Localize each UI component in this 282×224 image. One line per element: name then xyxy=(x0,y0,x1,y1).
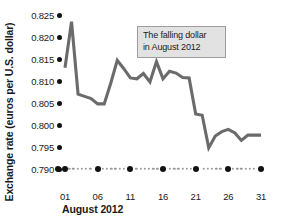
x-axis-baseline-dot-icon xyxy=(110,168,112,170)
x-axis-tick-label: 11 xyxy=(126,191,135,202)
x-axis-tick-dot-icon xyxy=(225,166,231,172)
x-axis-baseline-dot-icon xyxy=(211,168,213,170)
x-axis-baseline-dot-icon xyxy=(106,168,108,170)
y-axis-tick-label: 0.805 xyxy=(24,98,54,109)
y-axis-tick-dot-icon xyxy=(57,145,62,150)
x-axis-tick-dot-icon xyxy=(193,166,199,172)
annotation-callout: The falling dollar in August 2012 xyxy=(137,26,226,58)
exchange-rate-line-chart: Exchange rate (euros per U.S. dollar) 0.… xyxy=(0,0,282,224)
x-axis-baseline-dot-icon xyxy=(215,168,217,170)
x-axis-baseline-dot-icon xyxy=(232,168,234,170)
x-axis-baseline-dot-icon xyxy=(139,168,141,170)
x-axis-baseline-dot-icon xyxy=(156,168,158,170)
y-axis-tick-label: 0.825 xyxy=(24,10,54,21)
y-axis-tick-label: 0.815 xyxy=(24,54,54,65)
y-axis-title: Exchange rate (euros per U.S. dollar) xyxy=(0,0,18,224)
x-axis-baseline-dot-icon xyxy=(68,168,70,170)
x-axis-tick-label: 26 xyxy=(223,191,233,202)
y-axis-tick: 0.825 xyxy=(24,9,62,21)
x-axis-baseline-dot-icon xyxy=(102,168,104,170)
x-axis-baseline-dot-icon xyxy=(76,168,78,170)
y-axis-tick-label: 0.820 xyxy=(24,32,54,43)
x-axis-baseline-dot-icon xyxy=(253,168,255,170)
x-axis-baseline-dot-icon xyxy=(89,168,91,170)
annotation-line-2: in August 2012 xyxy=(143,42,220,54)
y-axis-tick: 0.820 xyxy=(24,31,62,43)
y-axis-tick-dot-icon xyxy=(57,13,62,18)
x-axis-baseline-dot-icon xyxy=(72,168,74,170)
x-axis-tick-dot-icon xyxy=(258,166,264,172)
x-axis-tick-dot-icon xyxy=(95,166,101,172)
x-axis-baseline-dot-icon xyxy=(81,168,83,170)
y-axis-tick-dot-icon xyxy=(57,35,62,40)
x-axis-baseline-dot-icon xyxy=(173,168,175,170)
x-axis-tick-label: 01 xyxy=(60,191,70,202)
x-axis-tick-label: 21 xyxy=(191,191,201,202)
x-axis-tick-dot-icon xyxy=(62,166,68,172)
x-axis-tick-label: 06 xyxy=(93,191,103,202)
y-axis-tick: 0.805 xyxy=(24,97,62,109)
y-axis-tick-dot-icon xyxy=(57,101,62,106)
x-axis-origin-dot-icon xyxy=(55,166,61,172)
y-axis-tick-label: 0.790 xyxy=(24,164,54,175)
x-axis-baseline-dot-icon xyxy=(123,168,125,170)
y-axis-tick-dot-icon xyxy=(57,57,62,62)
x-axis-tick-dot-icon xyxy=(160,166,166,172)
x-axis-baseline-dot-icon xyxy=(114,168,116,170)
x-axis-baseline-dot-icon xyxy=(249,168,251,170)
x-axis-baseline-dot-icon xyxy=(85,168,87,170)
y-axis-tick-dot-icon xyxy=(57,123,62,128)
y-axis-tick-label: 0.810 xyxy=(24,76,54,87)
x-axis-baseline-dot-icon xyxy=(181,168,183,170)
x-axis-baseline-dot-icon xyxy=(244,168,246,170)
x-axis-baseline-dot-icon xyxy=(236,168,238,170)
x-axis-baseline-dot-icon xyxy=(152,168,154,170)
x-axis-baseline-dot-icon xyxy=(148,168,150,170)
y-axis-tick: 0.800 xyxy=(24,119,62,131)
x-axis-baseline-dot-icon xyxy=(169,168,171,170)
y-axis-tick: 0.795 xyxy=(24,141,62,153)
x-axis-baseline-dot-icon xyxy=(118,168,120,170)
annotation-line-1: The falling dollar xyxy=(143,30,220,42)
y-axis-tick: 0.810 xyxy=(24,75,62,87)
y-axis-tick-dot-icon xyxy=(57,79,62,84)
x-axis-baseline-dot-icon xyxy=(177,168,179,170)
x-axis-tick-dot-icon xyxy=(127,166,133,172)
x-axis-baseline-dot-icon xyxy=(186,168,188,170)
x-axis-title: August 2012 xyxy=(62,203,123,215)
y-axis-tick: 0.815 xyxy=(24,53,62,65)
x-axis-baseline-dot-icon xyxy=(207,168,209,170)
x-axis-baseline-dot-icon xyxy=(240,168,242,170)
x-axis-baseline-dot-icon xyxy=(219,168,221,170)
x-axis-tick-label: 31 xyxy=(256,191,266,202)
x-axis-baseline-dot-icon xyxy=(202,168,204,170)
y-axis-tick-label: 0.800 xyxy=(24,120,54,131)
x-axis-tick-label: 16 xyxy=(158,191,168,202)
y-axis-tick-label: 0.795 xyxy=(24,142,54,153)
x-axis-baseline-dot-icon xyxy=(135,168,137,170)
x-axis-baseline-dot-icon xyxy=(144,168,146,170)
